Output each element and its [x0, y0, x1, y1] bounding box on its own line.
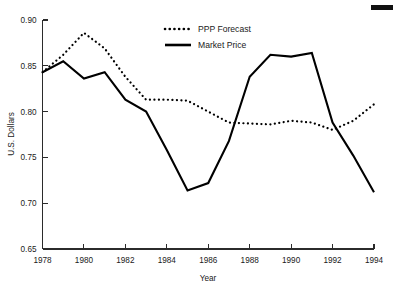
- y-tick-label-0.80: 0.80: [21, 108, 37, 117]
- y-tick-label-0.85: 0.85: [21, 62, 37, 71]
- y-tick-label-0.75: 0.75: [21, 153, 37, 162]
- line-chart: 0.650.700.750.800.850.901978198019821984…: [0, 0, 396, 294]
- x-tick-label-1990: 1990: [282, 256, 301, 265]
- legend-label-ppp-forecast: PPP Forecast: [198, 24, 251, 34]
- series-line-market-price: [43, 53, 375, 192]
- y-axis-title: U.S. Dollars: [7, 112, 16, 156]
- x-tick-label-1984: 1984: [158, 256, 177, 265]
- x-tick-label-1992: 1992: [323, 256, 342, 265]
- y-tick-label-0.65: 0.65: [21, 245, 37, 254]
- y-tick-label-0.90: 0.90: [21, 16, 37, 25]
- axis-ticks: [43, 20, 375, 249]
- x-tick-label-1986: 1986: [199, 256, 218, 265]
- x-tick-label-1980: 1980: [75, 256, 94, 265]
- axes: [43, 20, 375, 249]
- legend-label-market-price: Market Price: [198, 40, 246, 50]
- data-series: [43, 33, 375, 192]
- corner-crop-mark: [371, 5, 393, 10]
- chart-container: 0.650.700.750.800.850.901978198019821984…: [0, 0, 396, 294]
- chart-legend: PPP ForecastMarket Price: [165, 24, 251, 50]
- y-tick-label-0.70: 0.70: [21, 199, 37, 208]
- x-tick-label-1982: 1982: [116, 256, 135, 265]
- x-tick-label-1994: 1994: [365, 256, 384, 265]
- x-tick-label-1978: 1978: [33, 256, 52, 265]
- x-axis-title: Year: [200, 274, 217, 283]
- axis-tick-labels: 0.650.700.750.800.850.901978198019821984…: [21, 16, 384, 265]
- x-tick-label-1988: 1988: [241, 256, 260, 265]
